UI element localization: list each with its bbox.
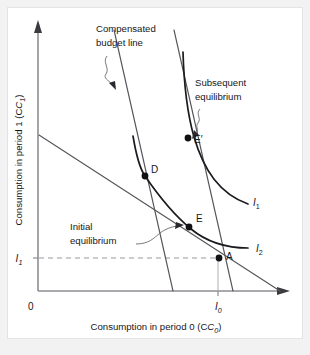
point-dot-d[interactable] — [142, 173, 149, 180]
budget-line-group — [39, 30, 280, 291]
annotation-subsequent-line1: Subsequent — [195, 77, 247, 88]
point-label-a: A — [226, 251, 233, 262]
axis-group — [33, 20, 290, 296]
curve-label-i2: I2 — [256, 243, 263, 257]
point-label-group: D E A E′ — [151, 134, 233, 262]
x-axis-title: Consumption in period 0 (CC0) — [91, 321, 222, 335]
x-axis-title-var: C — [207, 321, 214, 332]
annotation-compensated-line2: budget line — [96, 37, 143, 48]
y-axis-title-main: Consumption in period 1 (C — [13, 109, 24, 226]
point-label-d: D — [151, 164, 158, 175]
x-axis-title-tail: ) — [218, 321, 221, 332]
point-dot-e[interactable] — [186, 224, 193, 231]
leader-line-initial — [136, 226, 177, 244]
y-axis-title-var: C — [13, 102, 24, 109]
y-axis-title: Consumption in period 1 (CC1) — [13, 95, 27, 226]
origin-label: 0 — [28, 301, 34, 312]
x-axis-tick-label-i0: I0 — [215, 301, 222, 315]
x-tick-sub: 0 — [218, 306, 222, 315]
y-axis-arrowhead — [34, 20, 42, 33]
original-budget-line — [39, 135, 280, 291]
curve-label-i1-sub: 1 — [256, 202, 260, 211]
axis-label-group: 0 I1 I0 Consumption in period 0 (CC0) Co… — [13, 95, 222, 335]
y-tick-sub: 1 — [18, 258, 22, 267]
leader-line-compensated — [105, 56, 112, 84]
annotation-initial-line1: Initial — [70, 221, 92, 232]
y-axis-tick-label-i1: I1 — [16, 253, 23, 267]
indifference-curve-i1 — [183, 52, 248, 204]
point-label-e-prime: E′ — [194, 134, 203, 145]
curve-label-group: I1 I2 — [253, 197, 263, 257]
annotation-compensated-line1: Compensated — [96, 23, 156, 34]
equilibrium-point-group — [142, 135, 223, 262]
curve-label-i1: I1 — [253, 197, 260, 211]
x-axis-title-main: Consumption in period 0 (C — [91, 321, 208, 332]
point-dot-a[interactable] — [216, 255, 223, 262]
leader-line-subsequent — [197, 109, 200, 132]
compensated-budget-line — [114, 30, 173, 291]
y-axis-title-tail: ) — [13, 95, 24, 98]
figure-root: Compensated budget line Subsequent equil… — [0, 0, 310, 355]
annotation-initial-line2: equilibrium — [70, 235, 116, 246]
annotation-subsequent-line2: equilibrium — [195, 91, 241, 102]
plot-panel: Compensated budget line Subsequent equil… — [8, 8, 302, 338]
guide-line-group — [39, 258, 218, 290]
point-dot-e-prime[interactable] — [185, 135, 192, 142]
economics-diagram-canvas: Compensated budget line Subsequent equil… — [8, 8, 302, 338]
point-label-e: E — [196, 213, 203, 224]
curve-label-i2-sub: 2 — [259, 248, 263, 257]
